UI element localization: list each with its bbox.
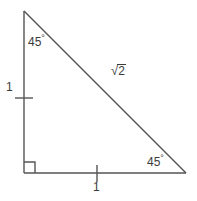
radical-sign-icon: √ (111, 64, 118, 77)
degree-symbol-top: ° (41, 33, 45, 43)
side-label-horizontal-leg: 1 (93, 181, 100, 193)
triangle-figure-svg (0, 0, 197, 201)
angle-label-bottom-right: 45° (147, 154, 164, 168)
side-label-vertical-leg: 1 (6, 81, 13, 93)
angle-bottom-right-value: 45 (147, 155, 160, 169)
hypotenuse-line (24, 11, 186, 173)
angle-top-value: 45 (28, 35, 41, 49)
side-label-hypotenuse: √2 (111, 64, 126, 77)
radicand-value: 2 (117, 64, 126, 77)
degree-symbol-bottom-right: ° (160, 153, 164, 163)
triangle-diagram: 45° 45° 1 1 √2 (0, 0, 197, 201)
angle-label-top: 45° (28, 34, 45, 48)
right-angle-marker-icon (24, 162, 35, 173)
